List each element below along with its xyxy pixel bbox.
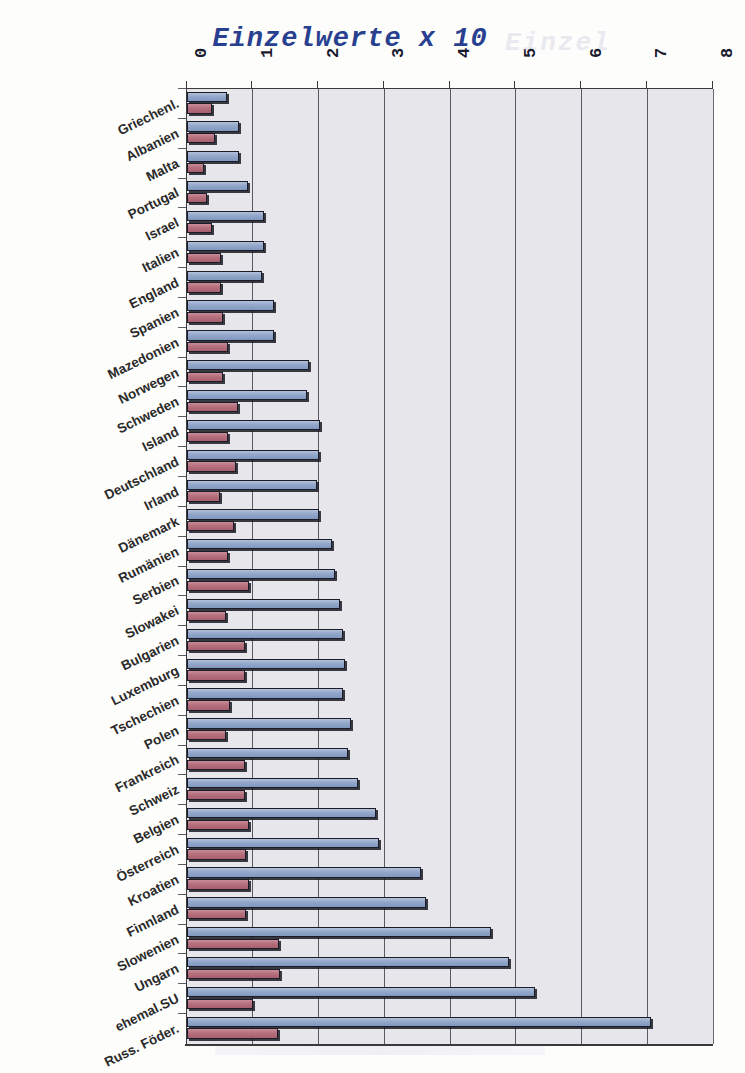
y-tick-mark bbox=[178, 118, 186, 119]
x-tick-label: 6 bbox=[587, 48, 606, 58]
y-tick-mark bbox=[178, 476, 186, 477]
bar-red bbox=[187, 103, 212, 113]
bar-red bbox=[187, 312, 223, 322]
bar-blue bbox=[187, 987, 535, 997]
x-tick-label: 0 bbox=[192, 48, 211, 58]
y-tick-mark bbox=[178, 327, 186, 328]
y-tick-mark bbox=[178, 267, 186, 268]
x-tick-label: 4 bbox=[455, 48, 474, 58]
y-tick-mark bbox=[178, 1013, 186, 1014]
bar-red bbox=[187, 1028, 278, 1038]
y-tick-mark bbox=[178, 715, 186, 716]
bar-blue bbox=[187, 718, 351, 728]
bar-blue bbox=[187, 181, 248, 191]
bar-blue bbox=[187, 748, 348, 758]
y-tick-mark bbox=[178, 536, 186, 537]
x-tick-mark bbox=[580, 81, 581, 88]
x-tick-label: 7 bbox=[652, 48, 671, 58]
bar-blue bbox=[187, 211, 264, 221]
bar-red bbox=[187, 193, 207, 203]
bar-red bbox=[187, 820, 249, 830]
y-tick-mark bbox=[178, 625, 186, 626]
bar-blue bbox=[187, 897, 426, 907]
bar-red bbox=[187, 641, 245, 651]
chart-page: Einzel Einzelwerte x 10 012345678 Griech… bbox=[0, 0, 745, 1073]
bar-red bbox=[187, 223, 212, 233]
y-tick-mark bbox=[178, 864, 186, 865]
x-tick-label: 5 bbox=[521, 48, 540, 58]
y-tick-mark bbox=[178, 745, 186, 746]
y-tick-mark bbox=[178, 983, 186, 984]
y-tick-mark bbox=[178, 595, 186, 596]
y-tick-mark bbox=[178, 924, 186, 925]
y-tick-mark bbox=[178, 834, 186, 835]
bar-red bbox=[187, 969, 280, 979]
y-tick-mark bbox=[178, 506, 186, 507]
bar-blue bbox=[187, 957, 509, 967]
y-tick-mark bbox=[178, 566, 186, 567]
x-tick-label: 3 bbox=[389, 48, 408, 58]
bar-red bbox=[187, 879, 249, 889]
bar-red bbox=[187, 611, 226, 621]
bar-red bbox=[187, 461, 236, 471]
bar-blue bbox=[187, 778, 358, 788]
x-tick-mark bbox=[514, 81, 515, 88]
x-tick-label: 2 bbox=[324, 48, 343, 58]
x-tick-mark bbox=[251, 81, 252, 88]
bar-red bbox=[187, 909, 246, 919]
gridline bbox=[450, 89, 451, 1044]
y-tick-mark bbox=[178, 953, 186, 954]
bar-blue bbox=[187, 659, 345, 669]
bar-blue bbox=[187, 867, 421, 877]
y-tick-mark bbox=[178, 804, 186, 805]
bar-red bbox=[187, 342, 228, 352]
gridline bbox=[581, 89, 582, 1044]
y-tick-mark bbox=[178, 655, 186, 656]
y-tick-mark bbox=[178, 416, 186, 417]
y-tick-mark bbox=[178, 148, 186, 149]
bar-blue bbox=[187, 330, 274, 340]
gridline bbox=[647, 89, 648, 1044]
x-tick-label: 1 bbox=[258, 48, 277, 58]
y-tick-mark bbox=[178, 894, 186, 895]
bar-red bbox=[187, 163, 204, 173]
bar-blue bbox=[187, 241, 264, 251]
bar-red bbox=[187, 133, 215, 143]
x-tick-mark bbox=[186, 81, 187, 88]
y-tick-mark bbox=[178, 237, 186, 238]
bar-blue bbox=[187, 450, 319, 460]
bar-red bbox=[187, 253, 221, 263]
bar-red bbox=[187, 700, 230, 710]
x-tick-mark bbox=[646, 81, 647, 88]
x-tick-mark bbox=[317, 81, 318, 88]
bar-blue bbox=[187, 300, 274, 310]
bar-red bbox=[187, 581, 249, 591]
bar-red bbox=[187, 432, 228, 442]
bar-blue bbox=[187, 151, 239, 161]
bar-blue bbox=[187, 539, 332, 549]
bar-red bbox=[187, 670, 245, 680]
x-tick-label: 8 bbox=[718, 48, 737, 58]
bar-blue bbox=[187, 271, 262, 281]
plot-area bbox=[186, 88, 713, 1044]
y-tick-mark bbox=[178, 88, 186, 89]
bar-red bbox=[187, 849, 246, 859]
bar-blue bbox=[187, 838, 379, 848]
bar-red bbox=[187, 790, 245, 800]
bar-blue bbox=[187, 420, 320, 430]
bar-blue bbox=[187, 92, 227, 102]
bar-red bbox=[187, 939, 279, 949]
bar-blue bbox=[187, 569, 335, 579]
y-tick-mark bbox=[178, 178, 186, 179]
bar-blue bbox=[187, 599, 340, 609]
bar-red bbox=[187, 491, 220, 501]
bar-red bbox=[187, 282, 221, 292]
bar-red bbox=[187, 372, 223, 382]
bar-blue bbox=[187, 390, 307, 400]
bar-red bbox=[187, 999, 253, 1009]
y-tick-mark bbox=[178, 446, 186, 447]
bar-blue bbox=[187, 688, 343, 698]
bar-blue bbox=[187, 509, 319, 519]
bar-red bbox=[187, 521, 234, 531]
bar-red bbox=[187, 760, 245, 770]
